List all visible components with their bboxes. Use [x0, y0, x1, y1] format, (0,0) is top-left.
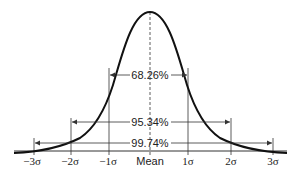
label-68: 68.26% — [131, 69, 169, 81]
tick-plus-3-sigma: 3σ — [267, 155, 279, 167]
tick-minus-1-sigma: −1σ — [99, 155, 117, 167]
label-99: 99.74% — [131, 137, 169, 149]
tick-mean: Mean — [136, 155, 164, 167]
tick-plus-2-sigma: 2σ — [225, 155, 237, 167]
tick-minus-2-sigma: −2σ — [61, 155, 79, 167]
tick-plus-1-sigma: 1σ — [182, 155, 194, 167]
tick-minus-3-sigma: −3σ — [23, 155, 41, 167]
normal-distribution-diagram: 68.26% 95.34% 99.74% −3σ −2σ −1σ Mean 1σ… — [0, 0, 301, 172]
bell-curve — [14, 12, 287, 153]
label-95: 95.34% — [131, 116, 169, 128]
